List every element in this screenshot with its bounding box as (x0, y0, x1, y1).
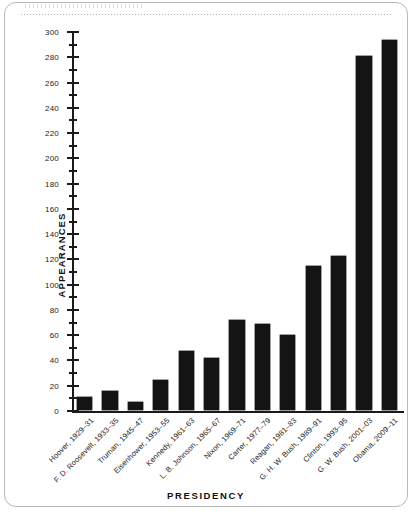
y-axis-major-tick: 20 (67, 385, 79, 387)
y-axis-tick-label: 20 (50, 381, 59, 390)
plot-area: 0204060801001201401601802002202402602803… (72, 32, 402, 412)
x-axis-tick-label: Obama, 2009–11 (351, 416, 399, 464)
y-axis-minor-tick (69, 170, 77, 172)
bar (128, 402, 143, 410)
y-axis-major-tick: 60 (67, 334, 79, 336)
y-axis-minor-tick (69, 246, 77, 248)
y-axis-major-tick: 160 (67, 208, 79, 210)
y-axis-minor-tick (69, 271, 77, 273)
y-axis-minor-tick (69, 44, 77, 46)
x-axis-title: PRESIDENCY (5, 490, 407, 501)
y-axis-minor-tick (69, 94, 77, 96)
y-axis-tick-label: 100 (45, 280, 59, 289)
y-axis-major-tick: 220 (67, 132, 79, 134)
bar (306, 266, 321, 410)
y-axis-tick-label: 80 (50, 305, 59, 314)
y-axis-major-tick: 180 (67, 183, 79, 185)
y-axis-minor-tick (69, 221, 77, 223)
y-axis-tick-label: 160 (45, 204, 59, 213)
y-axis-minor-tick (69, 347, 77, 349)
y-axis-tick-label: 60 (50, 331, 59, 340)
bar (331, 256, 346, 410)
y-axis-tick-label: 260 (45, 78, 59, 87)
y-axis-tick-label: 300 (45, 28, 59, 37)
y-axis-minor-tick (69, 296, 77, 298)
y-axis-line (72, 32, 74, 413)
y-axis-major-tick: 40 (67, 359, 79, 361)
y-axis-major-tick: 240 (67, 107, 79, 109)
y-axis-major-tick: 300 (67, 31, 79, 33)
y-axis-major-tick: 260 (67, 82, 79, 84)
scan-artifact-smudge (25, 4, 145, 8)
y-axis-major-tick: 100 (67, 284, 79, 286)
bar (382, 40, 397, 410)
y-axis-tick-label: 220 (45, 129, 59, 138)
y-axis-major-tick: 140 (67, 233, 79, 235)
y-axis-major-tick: 80 (67, 309, 79, 311)
y-axis-major-tick: 0 (67, 410, 79, 412)
y-axis-major-tick: 280 (67, 56, 79, 58)
bar (77, 397, 92, 410)
y-axis-tick-label: 200 (45, 154, 59, 163)
bar (356, 56, 371, 410)
bar (204, 358, 219, 410)
y-axis-minor-tick (69, 372, 77, 374)
x-axis-tick-label: Hoover, 1929–31 (47, 416, 95, 464)
y-axis-minor-tick (69, 195, 77, 197)
y-axis-tick-label: 240 (45, 103, 59, 112)
bar (280, 335, 295, 410)
y-axis-minor-tick (69, 119, 77, 121)
y-axis-minor-tick (69, 322, 77, 324)
y-axis-tick-label: 0 (54, 407, 59, 416)
x-axis-line (72, 411, 404, 413)
chart-card: APPEARANCES 0204060801001201401601802002… (4, 2, 408, 507)
y-axis-tick-label: 140 (45, 230, 59, 239)
bar (229, 320, 244, 410)
y-axis-tick-label: 40 (50, 356, 59, 365)
y-axis-minor-tick (69, 397, 77, 399)
scan-artifact-line (21, 14, 393, 15)
y-axis-major-tick: 200 (67, 157, 79, 159)
bar (179, 351, 194, 410)
y-axis-major-tick: 120 (67, 258, 79, 260)
bar (255, 324, 270, 410)
bar (102, 391, 117, 410)
y-axis-minor-tick (69, 145, 77, 147)
y-axis-tick-label: 180 (45, 179, 59, 188)
y-axis-minor-tick (69, 69, 77, 71)
y-axis-tick-label: 280 (45, 53, 59, 62)
bar (153, 380, 168, 410)
y-axis-tick-label: 120 (45, 255, 59, 264)
